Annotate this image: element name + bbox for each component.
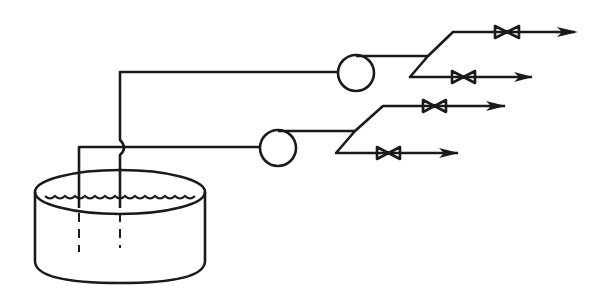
pump-2-icon bbox=[260, 130, 296, 166]
pump-1-icon bbox=[338, 55, 374, 91]
discharge-line-1 bbox=[356, 56, 532, 77]
diagram-canvas bbox=[0, 0, 612, 300]
process-diagram bbox=[0, 0, 612, 300]
discharge-line-2 bbox=[278, 131, 458, 153]
suction-line-1 bbox=[120, 72, 338, 208]
